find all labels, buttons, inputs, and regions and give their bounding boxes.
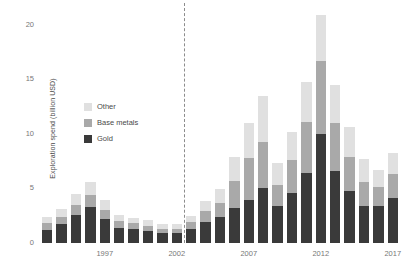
bar-segment-base-metals	[229, 181, 239, 208]
bar-segment-other	[344, 127, 354, 156]
bar-segment-gold	[388, 198, 398, 243]
bar-1994	[56, 209, 66, 243]
bar-2004	[200, 201, 210, 244]
legend-swatch-base-metals	[84, 119, 92, 127]
bar-segment-other	[301, 82, 311, 122]
bar-segment-base-metals	[56, 217, 66, 225]
vline-annotation-2003	[184, 3, 185, 243]
bar-segment-gold	[100, 219, 110, 243]
legend-item-base-metals[interactable]: Base metals	[84, 116, 138, 129]
x-tick-label: 2017	[373, 249, 404, 258]
bar-segment-other	[85, 182, 95, 195]
bar-1996	[85, 182, 95, 243]
bar-2014	[344, 127, 354, 243]
bar-segment-other	[244, 123, 254, 158]
bar-2010	[287, 132, 297, 243]
bar-2001	[157, 224, 167, 243]
bar-segment-other	[272, 163, 282, 185]
bar-segment-gold	[258, 188, 268, 243]
bar-2011	[301, 82, 311, 243]
bar-segment-gold	[301, 173, 311, 243]
bar-segment-base-metals	[215, 203, 225, 217]
bar-segment-base-metals	[301, 122, 311, 173]
bar-2008	[258, 96, 268, 243]
bar-2000	[143, 220, 153, 243]
bar-segment-gold	[244, 200, 254, 243]
bar-segment-other	[215, 189, 225, 203]
legend-swatch-other	[84, 103, 92, 111]
bar-segment-other	[316, 15, 326, 61]
bar-segment-gold	[56, 224, 66, 243]
bar-segment-base-metals	[85, 195, 95, 207]
bar-segment-gold	[344, 191, 354, 243]
bar-2012	[316, 15, 326, 243]
bar-2009	[272, 163, 282, 243]
bar-segment-base-metals	[388, 174, 398, 198]
bar-1997	[100, 200, 110, 243]
bar-1998	[114, 215, 124, 243]
bar-2013	[330, 85, 340, 243]
bar-segment-base-metals	[272, 185, 282, 206]
bar-segment-gold	[71, 215, 81, 243]
legend-item-other[interactable]: Other	[84, 100, 138, 113]
legend-item-gold[interactable]: Gold	[84, 132, 138, 145]
bar-segment-base-metals	[316, 61, 326, 134]
bar-segment-base-metals	[71, 205, 81, 215]
bar-segment-base-metals	[100, 210, 110, 219]
bar-2017	[388, 153, 398, 243]
bar-1993	[42, 217, 52, 243]
bar-segment-gold	[215, 217, 225, 243]
bar-segment-gold	[287, 193, 297, 243]
bar-segment-gold	[128, 229, 138, 243]
bar-segment-gold	[143, 231, 153, 243]
bar-segment-base-metals	[244, 158, 254, 201]
bar-segment-gold	[186, 229, 196, 243]
bar-segment-other	[287, 132, 297, 160]
bar-segment-base-metals	[287, 160, 297, 193]
bar-segment-other	[388, 153, 398, 175]
y-tick-label: 20	[4, 21, 34, 29]
bar-2006	[229, 157, 239, 243]
bar-segment-gold	[316, 134, 326, 243]
bar-1995	[71, 194, 81, 243]
bar-segment-base-metals	[258, 142, 268, 189]
bar-segment-other	[56, 209, 66, 217]
bar-segment-gold	[157, 233, 167, 243]
bar-segment-other	[200, 201, 210, 212]
bar-2005	[215, 189, 225, 244]
bar-2007	[244, 123, 254, 243]
bar-segment-other	[100, 200, 110, 210]
bar-segment-base-metals	[359, 182, 369, 206]
x-tick-label: 2012	[301, 249, 341, 258]
x-tick-label: 1997	[85, 249, 125, 258]
bar-segment-base-metals	[200, 211, 210, 222]
bar-segment-gold	[330, 171, 340, 243]
bar-segment-other	[359, 159, 369, 182]
bar-segment-base-metals	[373, 187, 383, 206]
bar-segment-gold	[229, 208, 239, 243]
bar-segment-base-metals	[330, 123, 340, 171]
legend-label-other: Other	[97, 102, 116, 111]
bar-segment-gold	[359, 206, 369, 243]
y-tick-label: 0	[4, 239, 34, 247]
bar-segment-other	[258, 96, 268, 142]
bar-2015	[359, 159, 369, 243]
x-tick-label: 2002	[157, 249, 197, 258]
bar-segment-gold	[85, 207, 95, 243]
bar-segment-gold	[42, 230, 52, 243]
bar-segment-other	[71, 194, 81, 205]
bar-2003	[186, 216, 196, 243]
bar-2002	[172, 224, 182, 243]
bar-segment-other	[373, 170, 383, 187]
bar-segment-gold	[172, 233, 182, 243]
plot-area: Exploration spend (billion USD) 05101520…	[40, 14, 400, 243]
bar-2016	[373, 170, 383, 243]
y-tick-label: 10	[4, 130, 34, 138]
bar-segment-gold	[114, 228, 124, 243]
bar-segment-gold	[373, 206, 383, 243]
legend-label-base-metals: Base metals	[97, 118, 138, 127]
y-tick-label: 15	[4, 75, 34, 83]
chart-legend: Other Base metals Gold	[84, 100, 138, 148]
exploration-spend-chart: Exploration spend (billion USD) 05101520…	[0, 0, 404, 275]
bar-1999	[128, 218, 138, 243]
